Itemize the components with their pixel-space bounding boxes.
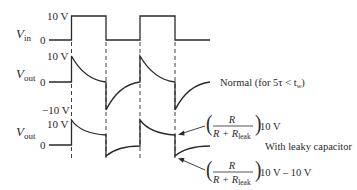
vout-normal-panel: Vout 10 V 0 −10 V Normal (for 5τ < t​w) bbox=[16, 50, 305, 116]
normal-annotation: Normal (for 5τ < t​w) bbox=[220, 77, 305, 90]
vin-tick-zero: 0 bbox=[40, 34, 46, 46]
vin-label: Vin bbox=[16, 26, 31, 43]
svg-text:10 V – 10 V: 10 V – 10 V bbox=[260, 167, 312, 178]
vin-square-wave bbox=[49, 16, 210, 40]
arrowhead-top bbox=[178, 131, 185, 136]
vout-normal-label: Vout bbox=[16, 66, 36, 83]
vout-leaky-waveform bbox=[49, 120, 210, 156]
vout-normal-tick-low: −10 V bbox=[42, 104, 70, 116]
svg-text:10 V: 10 V bbox=[260, 121, 281, 132]
leaky-annotation: With leaky capacitor bbox=[265, 141, 353, 152]
vout-normal-tick-high: 10 V bbox=[47, 50, 69, 62]
vout-normal-waveform bbox=[49, 56, 210, 110]
svg-text:(: ( bbox=[206, 156, 212, 183]
vin-panel: Vin 10 V 0 bbox=[16, 10, 210, 46]
vout-leaky-label: Vout bbox=[16, 124, 36, 141]
timing-guide-lines bbox=[72, 42, 176, 158]
arrow-bottom bbox=[180, 159, 205, 170]
arrowhead-bottom bbox=[178, 158, 185, 163]
formula-top: ( R R + Rleak ) 10 V bbox=[206, 110, 281, 141]
svg-text:(: ( bbox=[206, 110, 212, 137]
svg-text:R: R bbox=[228, 114, 236, 125]
formula-bottom: ( R R + Rleak ) 10 V – 10 V bbox=[206, 156, 312, 187]
vin-tick-high: 10 V bbox=[47, 10, 69, 22]
svg-text:R: R bbox=[228, 160, 236, 171]
vout-leaky-panel: Vout 10 V 0 ( R R + Rleak ) 10 V With le… bbox=[16, 110, 353, 187]
vout-normal-tick-zero: 0 bbox=[40, 76, 46, 88]
vout-leaky-tick-zero: 0 bbox=[40, 139, 46, 151]
rc-differentiator-waveform-diagram: Vin 10 V 0 Vout 10 V 0 −10 V Normal (for… bbox=[0, 0, 357, 190]
vout-leaky-tick-high: 10 V bbox=[47, 118, 69, 130]
svg-text:R + Rleak: R + Rleak bbox=[212, 174, 251, 187]
svg-text:R + Rleak: R + Rleak bbox=[212, 128, 251, 141]
